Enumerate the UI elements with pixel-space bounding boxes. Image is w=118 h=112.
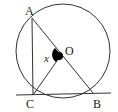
geometry-diagram: A O x C B <box>0 0 118 112</box>
circle <box>16 4 110 98</box>
segment-ac <box>32 18 33 95</box>
label-c: C <box>26 97 34 111</box>
label-a: A <box>25 4 34 18</box>
tangent-line <box>16 93 111 95</box>
label-b: B <box>93 97 101 111</box>
angle-marker-dot <box>55 52 63 60</box>
label-o: O <box>65 44 74 58</box>
label-x: x <box>43 52 49 64</box>
